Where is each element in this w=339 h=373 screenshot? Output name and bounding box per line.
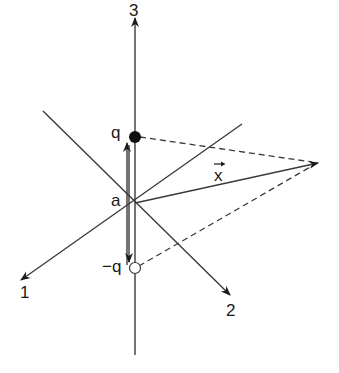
vector-arrow-icon bbox=[214, 161, 226, 167]
diagram-graphics bbox=[0, 0, 339, 373]
axis-3-label: 3 bbox=[129, 2, 138, 19]
position-vector-x bbox=[135, 163, 318, 203]
dashed-line-negative-charge bbox=[139, 166, 312, 266]
position-vector-text: x bbox=[214, 166, 223, 185]
negative-charge-label: −q bbox=[102, 258, 121, 275]
dashed-line-positive-charge bbox=[140, 137, 312, 162]
axis-1-label: 1 bbox=[20, 284, 29, 301]
negative-charge-circle bbox=[130, 263, 141, 274]
origin-label: a bbox=[111, 192, 120, 209]
axis-2-label: 2 bbox=[226, 302, 235, 319]
dipole-diagram: 3 1 2 a q −q x bbox=[0, 0, 339, 373]
positive-charge-dot bbox=[129, 131, 141, 143]
positive-charge-label: q bbox=[111, 124, 120, 141]
axis-1-line bbox=[21, 124, 242, 280]
position-vector-label: x bbox=[214, 167, 223, 184]
